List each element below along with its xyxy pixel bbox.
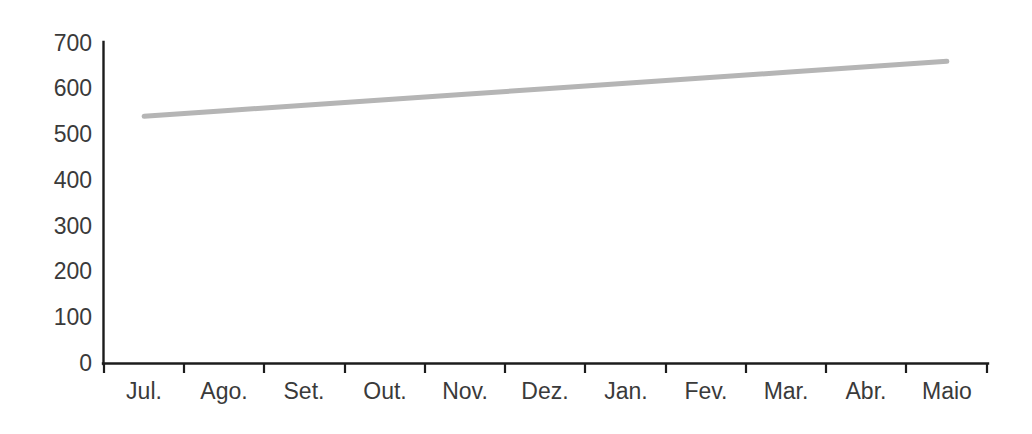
y-axis-tick-labels: 700 600 500 400 300 200 100 0 <box>54 30 92 376</box>
data-series-line <box>144 61 947 116</box>
x-axis-tick-labels: Jul. Ago. Set. Out. Nov. Dez. Jan. Fev. … <box>126 378 972 404</box>
x-tick-label: Abr. <box>846 378 887 404</box>
y-tick-label: 500 <box>54 121 92 147</box>
x-tick-label: Mar. <box>764 378 809 404</box>
x-tick-label: Fev. <box>684 378 727 404</box>
y-tick-label: 600 <box>54 75 92 101</box>
x-tick-label: Out. <box>363 378 406 404</box>
x-tick-label: Maio <box>922 378 972 404</box>
y-tick-label: 700 <box>54 30 92 56</box>
x-tick-label: Jul. <box>126 378 162 404</box>
y-tick-label: 300 <box>54 213 92 239</box>
x-tick-label: Ago. <box>200 378 247 404</box>
x-tick-label: Jan. <box>604 378 647 404</box>
chart-canvas: 700 600 500 400 300 200 100 0 <box>0 0 1032 434</box>
line-chart: 700 600 500 400 300 200 100 0 <box>0 0 1032 434</box>
x-tick-label: Set. <box>284 378 325 404</box>
y-tick-label: 400 <box>54 167 92 193</box>
x-tick-label: Dez. <box>521 378 568 404</box>
y-tick-label: 100 <box>54 304 92 330</box>
y-tick-label: 200 <box>54 258 92 284</box>
x-tick-label: Nov. <box>442 378 488 404</box>
y-tick-label: 0 <box>79 350 92 376</box>
